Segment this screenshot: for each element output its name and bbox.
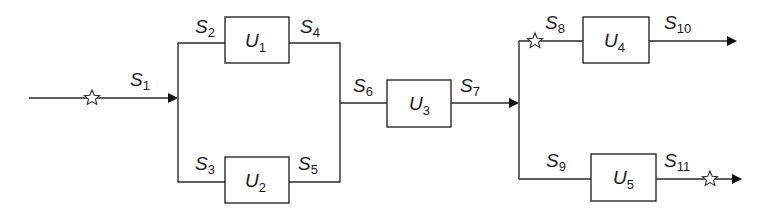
stream-label-s11: S11 xyxy=(664,150,690,174)
star-marker-icon xyxy=(84,90,99,104)
stream-label-s3: S3 xyxy=(195,153,215,177)
process-flow-diagram: S1 S2 U1 S4 S3 U2 S5 S6 U3 S7 xyxy=(0,0,768,217)
arrowhead-icon xyxy=(168,93,178,103)
arrowhead-icon xyxy=(732,174,742,184)
stream-s3: S3 xyxy=(178,153,225,182)
stream-s5: S5 xyxy=(289,153,340,182)
unit-u5: U5 xyxy=(591,154,656,201)
stream-s2: S2 xyxy=(178,16,225,43)
stream-label-s7: S7 xyxy=(460,75,480,99)
unit-u3: U3 xyxy=(387,80,451,127)
star-marker-icon xyxy=(527,33,542,47)
arrowhead-icon xyxy=(727,36,737,46)
stream-label-s5: S5 xyxy=(298,153,318,177)
stream-label-s8: S8 xyxy=(545,12,565,36)
arrowhead-icon xyxy=(509,98,519,108)
unit-u1: U1 xyxy=(225,17,289,63)
stream-s10: S10 xyxy=(649,12,737,46)
stream-s7: S7 xyxy=(451,75,519,108)
stream-s6: S6 xyxy=(340,75,387,103)
stream-s9: S9 xyxy=(519,150,591,179)
stream-label-s4: S4 xyxy=(300,16,320,40)
unit-u2: U2 xyxy=(225,157,289,203)
stream-label-s2: S2 xyxy=(195,16,215,40)
star-marker-icon xyxy=(702,171,717,185)
stream-label-s1: S1 xyxy=(130,69,150,93)
stream-label-s10: S10 xyxy=(664,12,691,36)
unit-u4: U4 xyxy=(583,17,649,63)
stream-label-s6: S6 xyxy=(353,75,373,99)
stream-s4: S4 xyxy=(289,16,340,43)
stream-s1: S1 xyxy=(29,69,178,104)
stream-label-s9: S9 xyxy=(546,150,566,174)
stream-s11: S11 xyxy=(656,150,742,185)
stream-s8: S8 xyxy=(519,12,583,47)
